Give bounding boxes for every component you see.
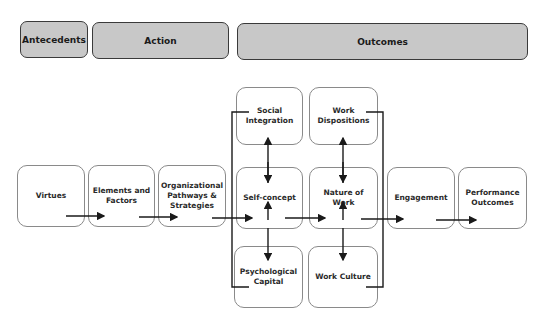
- node-psychological-capital: Psychological Capital: [234, 246, 303, 308]
- node-elements-factors: Elements and Factors: [88, 165, 155, 227]
- header-outcomes: Outcomes: [237, 23, 528, 60]
- node-org-pathways: Organizational Pathways & Strategies: [158, 165, 226, 227]
- node-performance-outcomes: Performance Outcomes: [458, 167, 527, 229]
- node-engagement: Engagement: [387, 167, 455, 229]
- header-antecedents: Antecedents: [20, 21, 88, 58]
- node-social-integration: Social Integration: [236, 87, 303, 145]
- node-self-concept: Self-concept: [236, 167, 303, 229]
- node-work-culture: Work Culture: [308, 246, 378, 308]
- header-outcomes-label: Outcomes: [357, 37, 408, 47]
- header-action-label: Action: [144, 36, 176, 46]
- node-nature-of-work: Nature of Work: [309, 167, 378, 229]
- node-virtues: Virtues: [17, 165, 85, 227]
- node-work-dispositions: Work Dispositions: [309, 87, 378, 145]
- header-antecedents-label: Antecedents: [22, 35, 86, 45]
- header-action: Action: [92, 22, 229, 59]
